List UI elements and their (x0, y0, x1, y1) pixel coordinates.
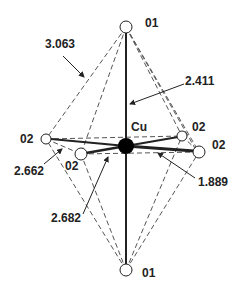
o1-top-label: 01 (145, 17, 158, 29)
o2-back-right-label: 02 (192, 121, 205, 133)
o1-bottom-atom (120, 264, 132, 276)
o2-front-right-atom (193, 146, 205, 158)
octahedron-diagram (0, 0, 239, 293)
o1-bottom-label: 01 (142, 267, 155, 279)
o1-top-atom (120, 21, 132, 33)
distance-2411-label: 2.411 (185, 75, 214, 87)
o2-front-right-label: 02 (212, 139, 225, 151)
cu-label: Cu (131, 121, 147, 133)
distance-2662-label: 2.662 (14, 165, 44, 177)
o2-left-atom (41, 134, 51, 144)
distance-1889-label: 1.889 (198, 176, 228, 188)
distance-arrows (44, 56, 195, 214)
distance-3063-label: 3.063 (45, 38, 75, 50)
o2-back-right-atom (177, 131, 187, 141)
o2-left-label: 02 (20, 133, 33, 145)
o2-front-left-label: 02 (65, 160, 78, 172)
cu-atom (118, 138, 134, 154)
distance-2682-label: 2.682 (51, 212, 81, 224)
